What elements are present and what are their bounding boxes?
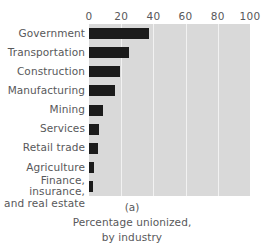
y-axis-category-labels: GovernmentTransportationConstructionManu…	[0, 24, 85, 196]
panel-letter: (a)	[0, 200, 264, 215]
x-tick-0: 0	[86, 10, 93, 23]
category-label: Mining	[0, 104, 85, 116]
category-label: Transportation	[0, 47, 85, 59]
bar	[89, 143, 98, 154]
bar	[89, 47, 129, 58]
x-tick-40: 40	[146, 10, 160, 23]
category-label: Government	[0, 28, 85, 40]
x-tick-100: 100	[240, 10, 261, 23]
bar	[89, 124, 99, 135]
plot-area	[89, 24, 250, 196]
figure-panel-a: 020406080100 GovernmentTransportationCon…	[0, 0, 264, 248]
category-label: Services	[0, 123, 85, 135]
category-label: Retail trade	[0, 142, 85, 154]
bars-layer	[89, 24, 250, 196]
x-tick-60: 60	[179, 10, 193, 23]
bar	[89, 105, 103, 116]
figure-caption: (a) Percentage unionized, by industry	[0, 200, 264, 245]
caption-line-1: Percentage unionized,	[0, 215, 264, 230]
x-tick-80: 80	[211, 10, 225, 23]
bar	[89, 85, 115, 96]
category-label: Construction	[0, 66, 85, 78]
x-axis-tick-labels: 020406080100	[0, 10, 264, 23]
bar	[89, 181, 93, 192]
bar	[89, 66, 120, 77]
category-label: Manufacturing	[0, 85, 85, 97]
caption-line-2: by industry	[0, 230, 264, 245]
category-label: Agriculture	[0, 162, 85, 174]
x-tick-20: 20	[114, 10, 128, 23]
bar	[89, 28, 149, 39]
bar	[89, 162, 94, 173]
